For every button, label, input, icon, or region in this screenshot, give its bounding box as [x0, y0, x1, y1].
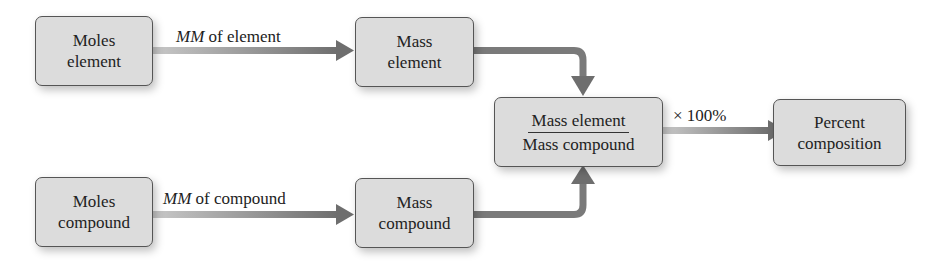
node-mass-element: Mass element: [355, 17, 474, 87]
ratio-denominator: Mass compound: [519, 133, 639, 155]
node-moles-compound-line2: compound: [58, 212, 130, 233]
node-ratio: Mass element Mass compound: [494, 97, 663, 167]
node-mass-compound-line1: Mass: [397, 192, 433, 213]
node-mass-compound: Mass compound: [355, 178, 474, 248]
node-percent-line2: composition: [797, 133, 881, 154]
edge-label-element-italic: MM: [176, 27, 204, 46]
arrow-mass-compound-to-ratio: [474, 165, 595, 215]
node-moles-element-line2: element: [67, 51, 121, 72]
node-moles-compound: Moles compound: [35, 177, 153, 247]
edge-label-element-rest: of element: [204, 27, 280, 46]
node-mass-element-line2: element: [388, 52, 442, 73]
edge-label-compound: MM of compound: [163, 189, 286, 209]
node-moles-compound-line1: Moles: [73, 191, 116, 212]
edge-label-compound-rest: of compound: [191, 189, 285, 208]
node-moles-element: Moles element: [35, 16, 153, 86]
edge-label-times-100: × 100%: [673, 106, 727, 126]
edge-label-compound-italic: MM: [163, 189, 191, 208]
arrow-mass-element-to-ratio: [474, 51, 595, 97]
node-mass-element-line1: Mass: [397, 31, 433, 52]
node-percent-composition: Percent composition: [773, 99, 906, 166]
node-mass-compound-line2: compound: [379, 213, 451, 234]
node-percent-line1: Percent: [814, 112, 865, 133]
node-moles-element-line1: Moles: [73, 30, 116, 51]
ratio-numerator: Mass element: [528, 110, 630, 133]
edge-label-element: MM of element: [176, 27, 281, 47]
